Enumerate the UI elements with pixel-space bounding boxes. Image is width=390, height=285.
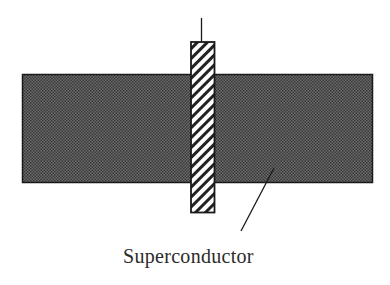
superconductor-label: Superconductor <box>123 245 254 268</box>
hatched-rod <box>191 42 215 213</box>
superconductor-diagram: Superconductor <box>0 0 390 285</box>
